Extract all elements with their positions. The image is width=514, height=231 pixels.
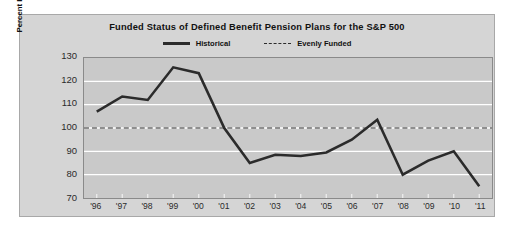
chart-title: Funded Status of Defined Benefit Pension… <box>20 22 494 32</box>
chart-legend: Historical Evenly Funded <box>20 39 494 48</box>
y-tick-label: 90 <box>43 145 77 156</box>
plot-area <box>83 57 493 199</box>
y-tick-label: 70 <box>43 192 77 203</box>
legend-label-historical: Historical <box>196 39 231 48</box>
legend-label-evenly-funded: Evenly Funded <box>297 39 351 48</box>
solid-line-icon <box>163 42 190 45</box>
x-tick-marks <box>97 194 480 198</box>
legend-item-evenly-funded: Evenly Funded <box>264 39 351 48</box>
x-tick-label: '11 <box>465 201 495 211</box>
y-tick-label: 110 <box>43 97 77 108</box>
chart-card: Funded Status of Defined Benefit Pension… <box>19 14 495 217</box>
y-axis-title: Percent Funded <box>15 0 24 63</box>
legend-item-historical: Historical <box>163 39 231 48</box>
y-tick-label: 130 <box>43 50 77 61</box>
chart-svg <box>84 58 492 198</box>
dashed-line-icon <box>264 43 291 44</box>
y-tick-label: 120 <box>43 74 77 85</box>
y-axis-ticks: 130120110100908070 <box>37 15 77 216</box>
y-tick-label: 80 <box>43 168 77 179</box>
x-axis-ticks: '96'97'98'99'00'01'02'03'04'05'06'07'08'… <box>83 201 493 217</box>
y-tick-label: 100 <box>43 121 77 132</box>
historical-line <box>97 67 480 186</box>
